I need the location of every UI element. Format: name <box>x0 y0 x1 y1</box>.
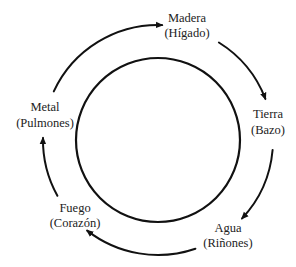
five-elements-cycle-diagram: Madera (Hígado) Tierra (Bazo) Agua (Riño… <box>0 0 296 267</box>
element-label-agua: Agua <box>214 221 242 235</box>
organ-label-corazon: (Corazón) <box>50 216 101 230</box>
node-fuego: Fuego (Corazón) <box>50 201 101 230</box>
node-madera: Madera (Hígado) <box>164 11 209 40</box>
organ-label-higado: (Hígado) <box>164 26 209 40</box>
element-label-madera: Madera <box>168 11 207 25</box>
node-agua: Agua (Riñones) <box>203 221 252 250</box>
arrow-fuego-to-metal <box>43 138 57 196</box>
node-metal: Metal (Pulmones) <box>16 100 74 130</box>
organ-label-rinones: (Riñones) <box>203 236 252 250</box>
element-label-metal: Metal <box>30 100 60 114</box>
arrow-madera-to-tierra <box>219 43 266 99</box>
element-label-fuego: Fuego <box>59 201 90 215</box>
organ-label-bazo: (Bazo) <box>251 123 285 137</box>
element-label-tierra: Tierra <box>253 107 284 121</box>
organ-label-pulmones: (Pulmones) <box>16 116 74 130</box>
arrow-agua-to-fuego <box>87 231 195 255</box>
inner-circle <box>76 58 240 222</box>
node-tierra: Tierra (Bazo) <box>251 107 285 137</box>
arrow-tierra-to-agua <box>242 150 273 218</box>
